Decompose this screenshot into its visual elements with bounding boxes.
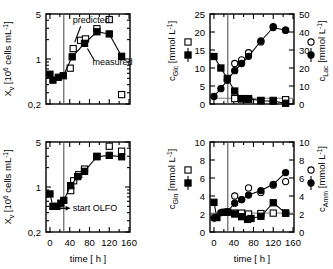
y-axis-label: Xv [106 cells mL-1] [2, 149, 15, 224]
y-tick-label-left: 2 [200, 209, 205, 220]
data-point [211, 53, 217, 59]
data-point [232, 88, 238, 94]
y-axis-label-right: cLac [mmol L-1] [316, 21, 329, 82]
x-tick-label: 80 [248, 237, 259, 248]
data-point [106, 143, 112, 149]
data-point [270, 200, 276, 206]
plot-frame [46, 142, 130, 232]
y-tick-label-right: 8 [299, 155, 304, 166]
x-tick-label: 160 [121, 237, 137, 248]
data-point [283, 179, 289, 185]
data-point [270, 210, 276, 216]
data-point [47, 191, 53, 197]
y-tick-label-left: 25 [194, 9, 205, 20]
legend-left [185, 167, 191, 190]
legend-marker-open [185, 167, 191, 173]
data-point [232, 60, 238, 66]
data-point [232, 200, 238, 206]
chart-bottom-left: 0,21504080120160time [ h ]Xv [106 cells … [0, 128, 169, 268]
y-tick-label-right: 6 [299, 173, 304, 184]
x-axis-label: time [ h ] [234, 253, 270, 264]
legend-marker-filled [185, 52, 191, 58]
leader-line-measured [87, 49, 94, 61]
y-axis-label: Xv [106 cells mL-1] [2, 21, 15, 96]
y-tick-label-left: 5 [200, 81, 205, 92]
data-point [68, 183, 74, 189]
y-tick-label-right: 10 [299, 137, 310, 148]
data-point [258, 213, 264, 219]
x-tick-label: 120 [265, 237, 281, 248]
legend-marker-open [185, 39, 191, 45]
data-point [239, 96, 245, 102]
data-point [283, 210, 289, 216]
y-tick-label-right: 2 [299, 209, 304, 220]
data-point [239, 197, 245, 203]
y-tick-label-right: 40 [299, 27, 310, 38]
y-tick-label-right: 50 [299, 9, 310, 20]
data-point [211, 199, 217, 205]
data-point [283, 27, 289, 33]
y-tick-label-left: 0 [200, 227, 205, 238]
data-point [232, 193, 238, 199]
y-tick-label-right: 10 [299, 81, 310, 92]
y-tick-label: 1 [36, 54, 41, 65]
y-tick-label-left: 4 [200, 191, 205, 202]
y-tick-label-left: 0 [200, 99, 205, 110]
y-tick-label-left: 8 [200, 155, 205, 166]
y-tick-label: 5 [36, 9, 41, 20]
data-point [245, 96, 251, 102]
y-tick-label-left: 10 [194, 137, 205, 148]
y-tick-label: 0,2 [28, 99, 41, 110]
data-point [283, 170, 289, 176]
annotation: predicted [73, 15, 110, 25]
panel-bottom-right: 0246810024681004080120160time [ h ]cGln … [164, 128, 333, 268]
legend-marker-open [308, 39, 314, 45]
svg-text:cAmm [mmol L-1]: cAmm [mmol L-1] [316, 146, 329, 212]
data-point [106, 152, 112, 158]
data-point [245, 53, 251, 59]
data-point [224, 77, 230, 83]
annotation: measured [92, 57, 132, 67]
data-point [47, 71, 53, 77]
chart-bottom-right: 0246810024681004080120160time [ h ]cGln … [164, 128, 333, 268]
data-point [270, 24, 276, 30]
data-point [119, 154, 125, 160]
data-point [94, 29, 100, 35]
data-point [232, 211, 238, 217]
x-tick-label: 40 [64, 237, 75, 248]
panel-top-right: 051015202501020304050cGlc [mmol L-1]cLac… [164, 0, 333, 140]
data-point [258, 98, 264, 104]
data-point [211, 93, 217, 99]
y-tick-label-left: 20 [194, 27, 205, 38]
data-point [270, 98, 276, 104]
annotation: start OLFO [73, 203, 118, 213]
y-tick-label-right: 20 [299, 63, 310, 74]
legend-marker-filled [308, 52, 314, 58]
data-point [211, 215, 217, 221]
y-tick-label: 5 [36, 137, 41, 148]
x-tick-label: 0 [47, 237, 52, 248]
data-point [258, 188, 264, 194]
series-measured [47, 152, 125, 209]
data-point [218, 65, 224, 71]
chart-top-right: 051015202501020304050cGlc [mmol L-1]cLac… [164, 0, 333, 140]
series-predicted [68, 143, 125, 194]
data-point [119, 91, 125, 97]
x-axis-label: time [ h ] [70, 253, 106, 264]
svg-text:cLac [mmol L-1]: cLac [mmol L-1] [316, 21, 329, 82]
legend-marker-open [308, 167, 314, 173]
data-point [270, 181, 276, 187]
data-point [81, 40, 87, 46]
y-axis-label-left: cGln [mmol L-1] [166, 149, 179, 210]
chart-top-left: 0,215Xv [106 cells mL-1]predictedmeasure… [0, 0, 169, 140]
y-tick-label: 0,2 [28, 227, 41, 238]
series-c-Lac-measured [211, 24, 289, 99]
y-axis-label-right: cAmm [mmol L-1] [316, 146, 329, 212]
legend-marker-filled [308, 180, 314, 186]
y-tick-label-left: 10 [194, 63, 205, 74]
data-point [283, 100, 289, 106]
y-tick-label-left: 6 [200, 173, 205, 184]
data-point [224, 209, 230, 215]
series-line [214, 28, 286, 97]
y-tick-label-right: 4 [299, 191, 304, 202]
